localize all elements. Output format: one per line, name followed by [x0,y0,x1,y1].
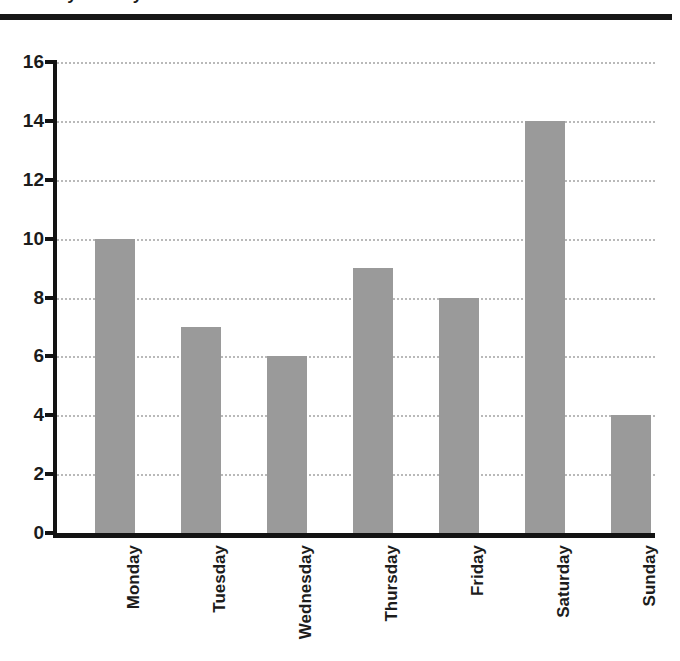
y-axis-tick [45,178,55,182]
y-axis-tick [45,296,55,300]
y-axis-tick [45,119,55,123]
title-fragment: Daily Activity [0,0,680,4]
y-axis-tick [45,60,55,64]
bar-chart: 1614121086420 MondayTuesdayWednesdayThur… [0,40,680,661]
x-axis-tick-label: Saturday [554,545,574,661]
y-axis-tick [45,531,55,535]
header-divider [0,14,672,20]
x-axis-tick-label: Wednesday [296,545,316,661]
x-axis-tick-label: Friday [468,545,488,661]
y-axis-tick [45,354,55,358]
y-axis-tick [45,413,55,417]
x-axis-tick-label: Thursday [382,545,402,661]
x-axis-labels: MondayTuesdayWednesdayThursdayFridaySatu… [0,40,680,661]
x-axis-tick-label: Tuesday [210,545,230,661]
x-axis-tick-label: Sunday [640,545,660,661]
chart-title-text: Daily Activity [36,0,142,3]
x-axis-tick-label: Monday [124,545,144,661]
y-axis-tick [45,237,55,241]
y-axis-tick [45,472,55,476]
